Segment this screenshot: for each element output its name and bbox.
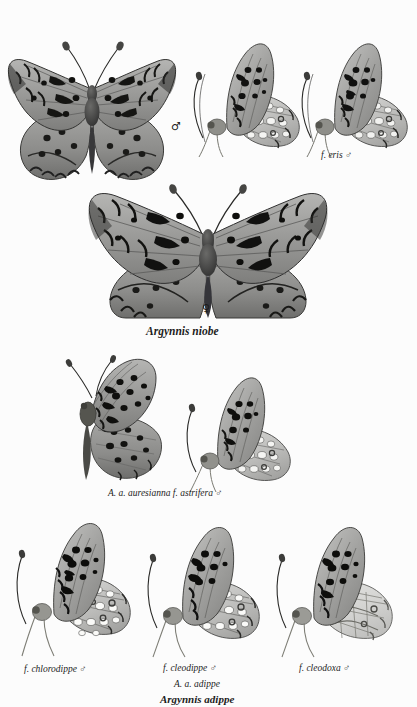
caption-aa-adippe: A. a. adippe (174, 680, 220, 690)
specimen-chlorodippe-underside (12, 512, 137, 657)
antenna-club (303, 71, 311, 81)
caption-cleodoxa: f. cleodoxa ♂ (299, 664, 350, 674)
eye (292, 610, 300, 618)
antenna (17, 556, 26, 624)
antenna (187, 410, 196, 472)
eye (315, 121, 322, 128)
antenna-club (195, 71, 203, 81)
antenna-club (188, 403, 196, 413)
eye (200, 455, 207, 462)
eye (207, 121, 214, 128)
antenna (148, 560, 157, 628)
specimen-niobe-female-upperside (72, 178, 344, 318)
specimen-cleodoxa-underside (272, 518, 398, 658)
caption-astrifera: A. a. auresianna f. astrifera ♂ (108, 489, 222, 499)
antenna-club (18, 549, 26, 559)
abdomen (83, 426, 91, 480)
caption-chlorodippe: f. chlorodippe ♂ (24, 665, 86, 675)
eye (32, 606, 40, 614)
caption-argynnis-adippe: Argynnis adippe (160, 694, 234, 705)
female-symbol: ♀ (202, 303, 210, 314)
specimen-niobe-male-upperside (4, 28, 180, 186)
eye (81, 403, 87, 409)
specimen-astrifera-upperside (62, 352, 182, 487)
antenna-club (278, 553, 286, 563)
antenna (277, 560, 286, 628)
legs (22, 614, 54, 656)
specimen-plate: ♂ (0, 0, 417, 707)
male-symbol-top: ♂ (171, 121, 181, 132)
caption-cleodippe: f. cleodippe ♂ (163, 664, 217, 674)
specimen-niobe-male-underside (185, 30, 307, 158)
specimen-astrifera-underside (178, 368, 296, 493)
caption-f-eris: f. eris ♂ (321, 151, 352, 161)
antenna-club (149, 553, 157, 563)
specimen-cleodippe-underside (143, 518, 265, 658)
caption-argynnis-niobe: Argynnis niobe (146, 326, 219, 338)
eye (163, 610, 171, 618)
specimen-niobe-eris-underside (293, 30, 415, 158)
